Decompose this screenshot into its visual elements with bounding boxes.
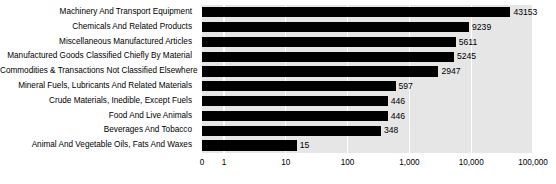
bar-row: 446 [202,109,533,124]
bar-row: 15 [202,138,533,153]
bar-value-label: 15 [297,138,310,153]
plot-area: 43153923956115245294759744644634815 [202,5,533,153]
bar-row: 5245 [202,49,533,64]
bar[interactable] [202,7,510,17]
category-axis: Machinery And Transport EquipmentChemica… [0,5,196,153]
bar-row: 9239 [202,20,533,35]
bar-chart: Machinery And Transport EquipmentChemica… [0,0,556,184]
category-label: Manufactured Goods Classified Chiefly By… [0,49,196,64]
bar[interactable] [202,140,297,150]
bar[interactable] [202,126,381,136]
category-label: Commodities & Transactions Not Classifie… [0,64,196,79]
category-label: Chemicals And Related Products [0,20,196,35]
bar-row: 43153 [202,5,533,20]
x-tick-label: 10,000 [459,158,484,167]
bar-row: 2947 [202,64,533,79]
bar-value-label: 2947 [438,64,460,79]
category-label: Miscellaneous Manufactured Articles [0,35,196,50]
bar[interactable] [202,22,469,32]
bar-row: 597 [202,79,533,94]
bar-value-label: 5245 [454,49,476,64]
bar[interactable] [202,111,388,121]
bar[interactable] [202,66,438,76]
bar-value-label: 597 [396,79,413,94]
x-tick-label: 0 [200,158,205,167]
category-label: Crude Materials, Inedible, Except Fuels [0,94,196,109]
bar-value-label: 446 [388,94,405,109]
x-tick-label: 10 [281,158,290,167]
x-tick-label: 1,000 [399,158,420,167]
bar-value-label: 9239 [469,20,491,35]
category-label: Beverages And Tobacco [0,123,196,138]
bar[interactable] [202,81,396,91]
x-tick-label: 100,000 [518,158,548,167]
bar-row: 446 [202,94,533,109]
bar-value-label: 5611 [456,35,477,50]
category-label: Animal And Vegetable Oils, Fats And Waxe… [0,138,196,153]
x-tick-label: 100 [341,158,355,167]
x-tick-label: 1 [222,158,227,167]
category-label: Food And Live Animals [0,109,196,124]
category-label: Machinery And Transport Equipment [0,5,196,20]
bar[interactable] [202,52,454,62]
x-axis: 01101001,00010,000100,000 [202,153,533,175]
bar-value-label: 446 [388,109,405,124]
bar-value-label: 348 [381,123,398,138]
category-label: Mineral Fuels, Lubricants And Related Ma… [0,79,196,94]
bar-value-label: 43153 [510,5,537,20]
bar[interactable] [202,96,388,106]
bar-row: 5611 [202,35,533,50]
bar[interactable] [202,37,456,47]
bar-row: 348 [202,123,533,138]
